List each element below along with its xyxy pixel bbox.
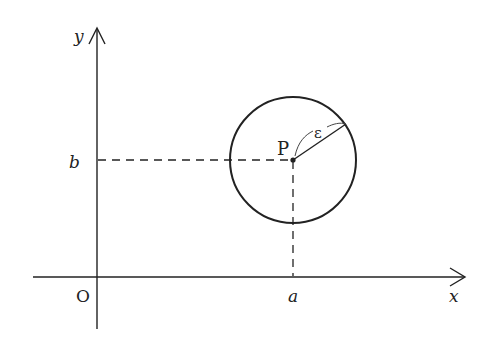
point-p-dot — [290, 157, 295, 162]
b-coordinate-label: b — [69, 152, 80, 172]
a-coordinate-label: a — [288, 286, 298, 306]
epsilon-label: ε — [314, 124, 322, 142]
y-axis-label: y — [73, 26, 84, 46]
x-axis — [33, 268, 465, 286]
point-p-label: P — [277, 138, 289, 159]
diagram-canvas: y x O b a P ε — [0, 0, 496, 347]
y-axis — [89, 28, 105, 329]
x-axis-label: x — [449, 286, 459, 306]
origin-label: O — [76, 286, 90, 306]
